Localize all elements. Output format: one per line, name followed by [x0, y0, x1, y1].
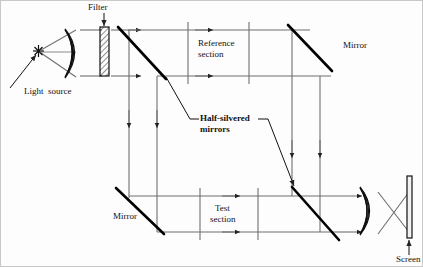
beamsplitter-upper-left-icon: [118, 27, 166, 79]
filter-plate-icon: [100, 27, 109, 76]
light-source-label: Light source: [24, 86, 72, 96]
mirror-bottom-label: Mirror: [113, 211, 137, 221]
test-section-label-line1: Test: [215, 203, 230, 213]
half-silvered-leader-right: [268, 119, 294, 186]
half-silvered-label-line1: Half-silvered: [200, 113, 250, 123]
screen-label: Screen: [396, 254, 421, 264]
optical-diagram-figure: Filter Light source Reference section Mi…: [0, 0, 423, 267]
half-silvered-leader-left: [166, 77, 190, 119]
screen-icon: [407, 176, 412, 238]
test-section-label-line2: section: [210, 214, 236, 224]
mirror-top-label: Mirror: [343, 40, 367, 50]
light-source-icon: [33, 45, 44, 57]
mirror-upper-right-icon: [288, 25, 332, 71]
half-silvered-label-line2: mirrors: [200, 124, 230, 134]
filter-label: Filter: [88, 2, 108, 12]
reference-section-label-line2: section: [198, 49, 224, 59]
reference-section-label-line1: Reference: [198, 38, 234, 48]
light-source-leader: [10, 55, 36, 88]
